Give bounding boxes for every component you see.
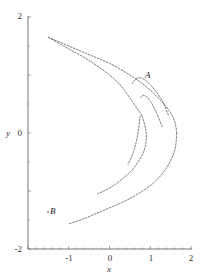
x-tick-label-2: 2 — [189, 253, 194, 263]
attractor-fold-a — [132, 78, 169, 116]
x-tick-label-neg1: -1 — [65, 253, 73, 263]
x-axis-ticks — [28, 246, 191, 249]
y-axis-label: y — [5, 128, 10, 138]
attractor-curves — [48, 37, 176, 224]
attractor-fold-b — [140, 95, 162, 127]
attractor-inner-stub — [128, 116, 140, 165]
x-tick-labels: -1 0 1 2 — [65, 253, 193, 263]
y-tick-label-0: 0 — [18, 128, 23, 138]
y-tick-label-2: 2 — [18, 11, 23, 21]
attractor-inner-upper — [48, 37, 142, 115]
attractor-outer-upper — [48, 37, 176, 133]
y-tick-label-neg2: -2 — [15, 244, 23, 254]
y-axis-ticks — [28, 17, 31, 249]
x-axis-label: x — [106, 264, 111, 274]
annotation-b: B — [50, 206, 56, 216]
x-tick-label-0: 0 — [108, 253, 113, 263]
annotation-a: A — [144, 70, 151, 80]
y-tick-labels: 2 0 -2 — [15, 11, 23, 254]
henon-attractor-plot: 2 0 -2 -1 0 1 2 x y A B — [0, 0, 202, 280]
annotation-b-dot — [47, 211, 48, 212]
x-tick-label-1: 1 — [149, 253, 154, 263]
